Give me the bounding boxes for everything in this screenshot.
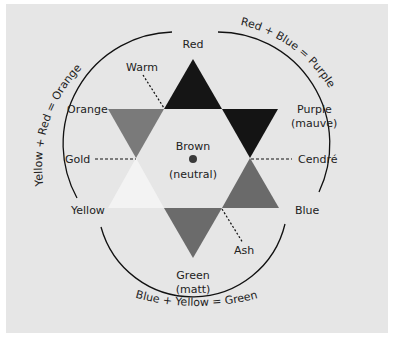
label-brown: Brown (176, 140, 211, 153)
label-blue: Blue (295, 204, 320, 217)
label-green: Green (176, 269, 209, 282)
label-neutral: (neutral) (169, 168, 217, 181)
label-purple-sub: (mauve) (291, 117, 337, 130)
label-purple: Purple (297, 103, 332, 116)
center-dot-brown (189, 155, 197, 163)
label-orange: Orange (67, 103, 108, 116)
triangle-yellow (108, 158, 164, 208)
label-ash: Ash (234, 244, 254, 257)
label-cendre: Cendré (298, 153, 338, 166)
label-yellow: Yellow (70, 204, 105, 217)
leader-warm (143, 75, 164, 108)
label-matt: (matt) (176, 283, 211, 296)
label-red: Red (183, 38, 204, 51)
triangle-blue (222, 158, 279, 208)
triangle-green (164, 208, 222, 258)
leader-ash (222, 209, 243, 243)
label-gold: Gold (65, 153, 90, 166)
arc-label-red-blue: Red + Blue = Purple (239, 15, 337, 90)
color-star-diagram: Yellow + Red = Orange Red + Blue = Purpl… (0, 0, 393, 342)
arc-label-yellow-red: Yellow + Red = Orange (32, 61, 84, 188)
triangle-red (164, 59, 222, 109)
triangle-purple (222, 109, 278, 158)
label-warm: Warm (126, 61, 158, 74)
triangle-orange (108, 109, 164, 158)
